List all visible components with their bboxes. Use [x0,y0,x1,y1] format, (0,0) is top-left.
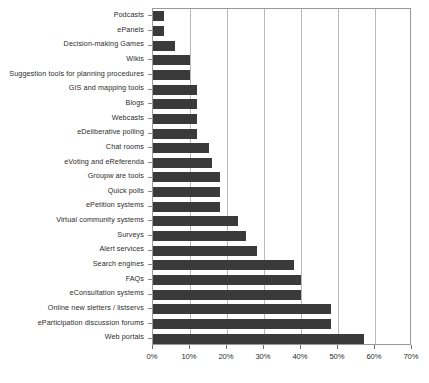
x-axis-tick [226,345,227,349]
x-axis-tick [189,345,190,349]
y-axis-tick [148,177,152,178]
y-axis-tick [148,323,152,324]
bar-row [153,243,410,258]
bar [153,172,220,182]
y-axis-tick [148,235,152,236]
x-axis-tick-label: 60% [366,352,381,361]
y-axis-tick [148,264,152,265]
bar-row [153,185,410,200]
bar-row [153,156,410,171]
bar [153,26,164,36]
y-axis-tick [148,220,152,221]
bar [153,143,209,153]
category-label: Groupw are tools [88,169,144,184]
bar [153,246,257,256]
bar-row [153,287,410,302]
category-label: Webcasts [112,111,144,126]
bar-row [153,126,410,141]
bar-row [153,97,410,112]
category-label: Wikis [126,52,144,67]
category-label: Podcasts [114,8,144,23]
category-label: Chat rooms [106,140,144,155]
x-axis-tick-label: 20% [218,352,233,361]
y-axis-tick [148,74,152,75]
category-label: Surveys [117,228,144,243]
bar [153,187,220,197]
x-axis-tick-label: 0% [147,352,158,361]
category-label: GIS and mapping tools [69,81,144,96]
y-axis-tick [148,147,152,148]
bar [153,231,246,241]
x-axis-tick [337,345,338,349]
y-axis-tick [148,103,152,104]
bar-row [153,82,410,97]
bar-row [153,302,410,317]
bar-row [153,170,410,185]
bar-row [153,258,410,273]
bar-row [153,141,410,156]
category-label: FAQs [126,272,144,287]
bar [153,99,197,109]
category-label: Web portals [105,330,144,345]
bar [153,55,190,65]
bar-row [153,68,410,83]
bar [153,158,212,168]
category-label: Search engines [93,257,144,272]
x-axis-tick-label: 70% [403,352,418,361]
y-axis-tick [148,308,152,309]
x-axis-tick-label: 40% [292,352,307,361]
bar-row [153,229,410,244]
category-label: eDeliberative polling [77,125,144,140]
x-axis-tick-label: 10% [181,352,196,361]
x-axis-tick [374,345,375,349]
y-axis-tick [148,30,152,31]
bar [153,304,331,314]
bar [153,290,301,300]
category-label: eConsultation systems [70,286,144,301]
bar [153,202,220,212]
bar-row [153,214,410,229]
horizontal-bar-chart: PodcastsePanelsDecision-making GamesWiki… [0,0,429,383]
category-label: Quick polls [108,184,144,199]
bar [153,114,197,124]
y-axis-tick [148,133,152,134]
y-axis-tick [148,89,152,90]
bar-row [153,331,410,346]
y-axis-tick [148,338,152,339]
bar [153,70,190,80]
y-axis-tick [148,118,152,119]
x-axis-tick [152,345,153,349]
category-axis-labels: PodcastsePanelsDecision-making GamesWiki… [0,8,148,345]
x-axis-tick [263,345,264,349]
x-axis-tick [300,345,301,349]
y-axis-tick [148,15,152,16]
x-axis-tick [411,345,412,349]
category-label: eVoting and eReferenda [64,155,144,170]
y-axis-tick [148,279,152,280]
bar-row [153,53,410,68]
bar-row [153,199,410,214]
y-axis-tick [148,191,152,192]
bar [153,11,164,21]
bar [153,319,331,329]
category-label: Virtual community systems [56,213,144,228]
bar-row [153,317,410,332]
y-axis-tick [148,45,152,46]
bar [153,41,175,51]
category-label: Online new sletters / listservs [48,301,144,316]
y-axis-tick [148,294,152,295]
bar [153,275,301,285]
y-axis-tick [148,59,152,60]
bar-row [153,112,410,127]
plot-area [152,8,411,345]
bar [153,216,238,226]
bar-row [153,38,410,53]
bar-row [153,24,410,39]
category-label: Decision-making Games [64,37,144,52]
bar [153,129,197,139]
bar [153,334,364,344]
bar-row [153,9,410,24]
category-label: eParticipation discussion forums [38,316,144,331]
category-label: ePetition systems [86,198,144,213]
category-label: Alert services [99,242,144,257]
